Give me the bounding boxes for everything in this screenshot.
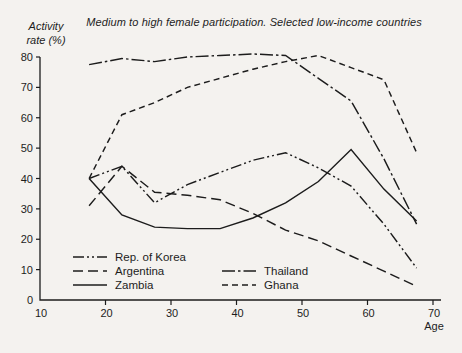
y-tick-label: 70 [21, 81, 33, 93]
y-tick-label: 40 [21, 173, 33, 185]
legend-label: Argentina [115, 265, 165, 277]
y-tick-label: 20 [21, 233, 33, 245]
x-tick-label: 10 [35, 307, 47, 319]
y-tick-label: 30 [21, 203, 33, 215]
axes: 0102030405060708010203040506070 [21, 51, 441, 319]
y-tick-label: 60 [21, 112, 33, 124]
x-axis-label: Age [424, 320, 444, 332]
x-tick-label: 50 [297, 307, 309, 319]
legend-label: Zambia [115, 279, 154, 291]
y-tick-label: 0 [27, 294, 33, 306]
x-tick-label: 60 [362, 307, 374, 319]
y-tick-label: 10 [21, 264, 33, 276]
series-line-ghana [89, 56, 417, 179]
chart-figure: Medium to high female participation. Sel… [0, 0, 462, 353]
x-tick-label: 40 [231, 307, 243, 319]
y-axis-label-line2: rate (%) [26, 34, 65, 46]
legend-label: Ghana [264, 279, 299, 291]
series-line-zambia [89, 150, 417, 229]
x-tick-label: 30 [166, 307, 178, 319]
participation-line-chart: Medium to high female participation. Sel… [0, 0, 462, 353]
x-tick-label: 70 [428, 307, 440, 319]
legend-label: Thailand [264, 265, 308, 277]
y-axis-label-line1: Activity [28, 20, 65, 32]
legend-label: Rep. of Korea [115, 251, 187, 263]
y-tick-label: 50 [21, 142, 33, 154]
y-tick-label: 80 [21, 51, 33, 63]
axis-lines [40, 57, 441, 300]
chart-title: Medium to high female participation. Sel… [86, 16, 422, 28]
x-tick-label: 20 [100, 307, 112, 319]
legend: Rep. of KoreaArgentinaZambiaThailandGhan… [73, 251, 308, 291]
series-line-thailand [89, 54, 417, 224]
